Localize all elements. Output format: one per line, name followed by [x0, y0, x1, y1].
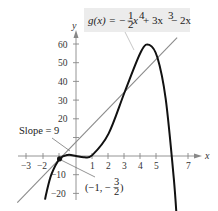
- slope-leader-line: [52, 138, 70, 151]
- svg-text:7: 7: [186, 161, 191, 171]
- svg-text:4: 4: [138, 161, 143, 171]
- svg-text:40: 40: [58, 77, 68, 87]
- svg-text:−3: −3: [21, 161, 31, 171]
- function-curve: [45, 44, 177, 211]
- svg-text:20: 20: [58, 114, 68, 124]
- svg-text:3: 3: [122, 161, 127, 171]
- svg-text:−2: −2: [37, 161, 47, 171]
- eq-mid: + 3x: [143, 14, 163, 26]
- equation-label: g(x) = −: [88, 14, 126, 27]
- x-axis-label: x: [204, 150, 210, 161]
- point-frac-den: 2: [114, 186, 119, 197]
- svg-text:5: 5: [154, 161, 159, 171]
- chart-figure: g(x) = − 1 2 x 4 + 3x 3 − 2x x y −3 −2 1…: [0, 0, 218, 211]
- svg-text:1: 1: [90, 161, 95, 171]
- y-tick-labels: 60 50 40 30 20 −10 −20: [51, 40, 68, 200]
- svg-text:−20: −20: [51, 189, 66, 199]
- x-axis: [18, 154, 202, 159]
- svg-text:50: 50: [58, 58, 68, 68]
- y-axis-label: y: [71, 20, 77, 31]
- x-tick-labels: −3 −2 1 2 3 4 5 7: [21, 161, 191, 171]
- svg-text:2: 2: [106, 161, 111, 171]
- eq-x: x: [132, 14, 138, 26]
- point-close-paren: ): [120, 182, 124, 194]
- tangent-line: [17, 38, 177, 203]
- slope-label: Slope = 9: [19, 125, 59, 136]
- eq-tail: − 2x: [171, 14, 191, 26]
- svg-text:60: 60: [58, 40, 68, 50]
- svg-text:30: 30: [58, 96, 68, 106]
- equation-leader-line: [125, 32, 134, 50]
- tangency-point: [57, 156, 62, 161]
- point-label: (−1, −: [85, 182, 111, 194]
